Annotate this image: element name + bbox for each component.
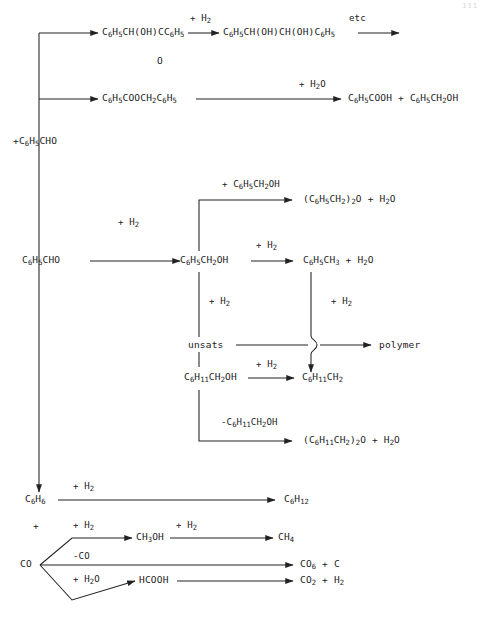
condition-h2-benzaldehyde: + H2 xyxy=(118,218,139,228)
condition-h2o-ester: + H2O xyxy=(299,80,326,90)
node-benzene: C6H6 xyxy=(25,494,46,505)
node-unsats: unsats xyxy=(188,340,224,350)
node-methylcyclohexane: C6H11CH2 xyxy=(302,372,343,383)
condition-h2-benzene: + H2 xyxy=(73,482,94,492)
node-co2-and-h2: CO2 + H2 xyxy=(300,575,344,586)
node-plus-sign: + xyxy=(33,521,39,531)
node-etc: etc xyxy=(349,14,366,23)
node-cyclohexane: C6H12 xyxy=(284,494,309,505)
condition-h2-benzoin: + H2 xyxy=(190,14,211,24)
node-co6-and-carbon: CO6 + C xyxy=(300,559,340,570)
node-benzoin: C6H5CH(OH)CC6H5 xyxy=(102,27,184,38)
node-formic-acid: HCOOH xyxy=(139,575,169,585)
node-toluene: C6H5CH3 + H2O xyxy=(303,255,374,266)
condition-h2-toluene: + H2 xyxy=(256,241,277,251)
node-benzoin-carbonyl-oxygen: O xyxy=(157,56,163,66)
condition-h2-methanol: + H2 xyxy=(73,521,94,531)
condition-benzyl-alcohol-etherification: + C6H5CH2OH xyxy=(222,180,280,190)
node-benzyl-benzoate: C6H5COOCH2C6H5 xyxy=(102,93,177,104)
condition-minus-cyclohexylmethanol: -C6H11CH2OH xyxy=(221,418,278,428)
condition-h2-cyclohexylmethanol: + H2 xyxy=(256,360,277,370)
node-benzaldehyde: C6H5CHO xyxy=(22,255,60,266)
node-plus-benzaldehyde: +C6H5CHO xyxy=(13,136,57,147)
node-benzyl-alcohol: C6H5CH2OH xyxy=(180,255,229,266)
condition-h2-unsats: + H2 xyxy=(209,297,230,307)
condition-minus-co: -CO xyxy=(73,552,90,561)
condition-h2-methane: + H2 xyxy=(176,521,197,531)
node-hydrobenzoin: C6H5CH(OH)CH(OH)C6H5 xyxy=(223,27,335,38)
node-dicyclohexylmethyl-ether: (C6H11CH2)2O + H2O xyxy=(303,435,400,446)
node-benzoic-acid-and-benzyl-alcohol: C6H5COOH + C6H5CH2OH xyxy=(348,93,458,104)
node-dibenzyl-ether: (C6H5CH2)2O + H2O xyxy=(303,194,396,205)
node-methanol: CH3OH xyxy=(136,532,164,543)
node-carbon-monoxide: CO xyxy=(20,559,32,569)
condition-h2-toluene-hydrogenation: + H2 xyxy=(331,297,352,307)
node-cyclohexyl-methanol: C6H11CH2OH xyxy=(184,372,237,383)
node-polymer: polymer xyxy=(379,340,420,350)
condition-h2o-formic-acid: + H2O xyxy=(73,575,100,585)
node-methane: CH4 xyxy=(278,532,294,543)
